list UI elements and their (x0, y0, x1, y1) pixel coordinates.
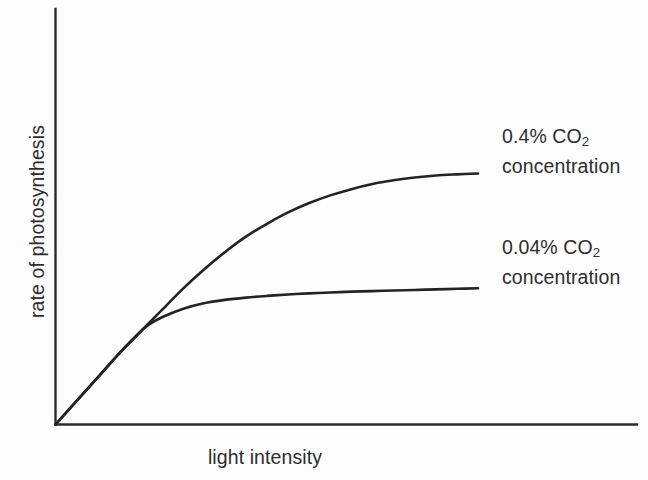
axes-group (56, 9, 638, 425)
photosynthesis-light-intensity-chart: 0.4% CO2 concentration 0.04% CO2 concent… (0, 0, 648, 480)
curve-low-co2 (56, 288, 478, 424)
co2-subscript: 2 (582, 134, 589, 149)
x-axis-title: light intensity (0, 446, 530, 469)
legend-label-low-co2-line2: concentration (502, 265, 620, 290)
legend-label-high-co2: 0.4% CO2 concentration (502, 124, 620, 179)
y-axis-title: rate of photosynthesis (26, 107, 49, 337)
curve-high-co2 (56, 174, 478, 424)
legend-label-low-co2-line1: 0.04% CO2 (502, 235, 620, 265)
co2-subscript: 2 (593, 245, 600, 260)
legend-label-low-co2: 0.04% CO2 concentration (502, 235, 620, 290)
legend-label-high-co2-line1: 0.4% CO2 (502, 124, 620, 154)
legend-label-high-co2-line2: concentration (502, 154, 620, 179)
curves-group (56, 174, 478, 424)
